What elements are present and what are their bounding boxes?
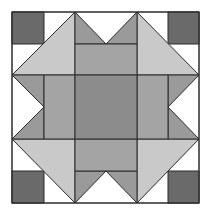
center-square [75, 75, 137, 139]
corner-square-bottom-left [12, 171, 44, 203]
side-rect-right [137, 75, 168, 139]
side-rect-bottom [75, 139, 137, 171]
center [75, 75, 137, 139]
corner-square-top-left [12, 12, 44, 44]
side-rect-left [44, 75, 75, 139]
side-rect-top [75, 44, 137, 75]
quilt-block-diagram [0, 0, 210, 216]
corner-square-top-right [168, 12, 199, 44]
corner-square-bottom-right [168, 171, 199, 203]
